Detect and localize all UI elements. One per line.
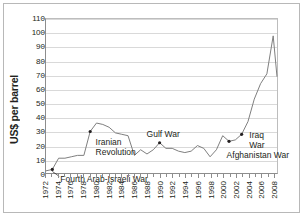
annotation-label-line: War <box>249 141 264 151</box>
x-tick-label: 1990 <box>156 181 165 199</box>
annotation-marker <box>227 140 230 143</box>
x-tick-mark <box>242 174 243 177</box>
x-tick-label: 1974 <box>54 181 63 199</box>
x-tick-label: 2000 <box>219 181 228 199</box>
x-tick-mark <box>45 174 46 178</box>
x-tick-mark <box>166 174 167 177</box>
x-tick-mark <box>128 174 129 177</box>
x-tick-mark <box>58 174 59 178</box>
x-tick-mark <box>102 174 103 177</box>
x-tick-label: 2006 <box>257 181 266 199</box>
x-tick-mark <box>261 174 262 178</box>
annotation-label-line: Revolution <box>96 148 136 158</box>
x-tick-mark <box>121 174 122 178</box>
x-tick-label: 2008 <box>270 181 279 199</box>
x-tick-mark <box>153 174 154 177</box>
plot-area-wrapper: Fourth Arab-Israeli WarIranianRevolution… <box>45 18 278 174</box>
x-tick-mark <box>147 174 148 178</box>
y-axis: 0102030405060708090100110 <box>18 18 45 176</box>
x-tick-mark <box>198 174 199 178</box>
x-tick-mark <box>90 174 91 177</box>
annotation-label: Gulf War <box>147 130 180 140</box>
x-tick-label: 2004 <box>245 181 254 199</box>
x-tick-label: 1972 <box>41 181 50 199</box>
x-tick-label: 1984 <box>117 181 126 199</box>
x-tick-label: 1998 <box>207 181 216 199</box>
x-tick-mark <box>230 174 231 177</box>
x-tick-label: 1980 <box>92 181 101 199</box>
x-tick-mark <box>185 174 186 178</box>
x-tick-label: 1988 <box>143 181 152 199</box>
annotation-label: Afghanistan War <box>227 151 290 161</box>
x-tick-label: 1976 <box>66 181 75 199</box>
x-tick-mark <box>77 174 78 177</box>
x-tick-mark <box>268 174 269 177</box>
x-tick-mark <box>191 174 192 177</box>
x-tick-mark <box>83 174 84 178</box>
x-tick-label: 1986 <box>130 181 139 199</box>
x-tick-mark <box>115 174 116 177</box>
x-tick-mark <box>249 174 250 178</box>
x-tick-label: 1992 <box>168 181 177 199</box>
x-tick-mark <box>179 174 180 177</box>
x-tick-mark <box>204 174 205 177</box>
x-tick-mark <box>109 174 110 178</box>
x-tick-mark <box>64 174 65 177</box>
annotation-marker <box>158 141 161 144</box>
x-tick-label: 1994 <box>181 181 190 199</box>
x-tick-label: 1982 <box>105 181 114 199</box>
x-tick-mark <box>217 174 218 177</box>
x-tick-mark <box>96 174 97 178</box>
plot-area: Fourth Arab-Israeli WarIranianRevolution… <box>45 18 278 174</box>
chart-frame: US$ per barrel 0102030405060708090100110… <box>3 3 300 213</box>
annotation-label: IraqWar <box>249 131 264 150</box>
x-tick-mark <box>70 174 71 178</box>
x-tick-label: 1996 <box>194 181 203 199</box>
annotation-marker <box>240 133 243 136</box>
x-axis: 1972197419761978198019821984198619881990… <box>45 174 279 218</box>
x-tick-mark <box>140 174 141 177</box>
annotation-label: IranianRevolution <box>96 138 136 157</box>
x-tick-mark <box>255 174 256 177</box>
annotation-marker <box>51 168 54 171</box>
x-tick-mark <box>236 174 237 178</box>
x-tick-mark <box>134 174 135 178</box>
x-tick-mark <box>211 174 212 178</box>
annotation-marker <box>89 130 92 133</box>
x-tick-mark <box>223 174 224 178</box>
x-tick-mark <box>172 174 173 178</box>
x-tick-mark <box>160 174 161 178</box>
x-tick-mark <box>51 174 52 177</box>
x-tick-label: 2002 <box>232 181 241 199</box>
x-tick-mark <box>274 174 275 178</box>
x-tick-label: 1978 <box>79 181 88 199</box>
